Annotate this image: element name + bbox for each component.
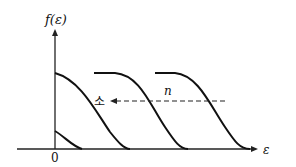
arrow-label-n: n (164, 84, 172, 98)
curve-2 (94, 73, 188, 149)
distribution-diagram: f(ε) ε 0 소 n (0, 0, 296, 167)
y-axis-arrowhead (52, 29, 58, 36)
x-axis-arrowhead (251, 146, 258, 152)
origin-label: 0 (51, 151, 59, 165)
curve-1 (55, 73, 130, 149)
x-axis-label: ε (263, 143, 269, 157)
dashed-arrow-head (110, 98, 117, 104)
arrow-label-small: 소 (94, 95, 105, 109)
y-axis-label: f(ε) (44, 12, 67, 27)
curve-low (55, 131, 82, 149)
